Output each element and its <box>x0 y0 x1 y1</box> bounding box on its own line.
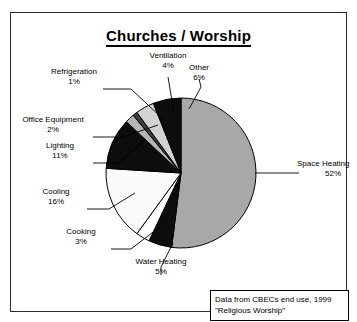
source-note-line-1: Data from CBECs end use, 1999 <box>215 294 344 305</box>
pie-label-ventilation-name: Ventilation <box>150 51 187 60</box>
pie-label-water-heating: Water Heating 5% <box>119 257 203 277</box>
source-note-box: Data from CBECs end use, 1999 "Religious… <box>210 290 349 321</box>
pie-label-refrigeration-value: 1% <box>37 77 111 87</box>
pie-label-space-heating-name: Space Heating <box>297 159 349 168</box>
pie-label-cooling: Cooling 16% <box>27 187 85 207</box>
pie-slices <box>106 98 256 248</box>
pie-label-water-heating-name: Water Heating <box>136 257 187 266</box>
pie-label-refrigeration-name: Refrigeration <box>51 67 97 76</box>
pie-label-lighting-value: 11% <box>29 151 91 161</box>
chart-frame: Churches / Worship Refrigeration 1% Vent… <box>10 12 347 312</box>
pie-label-space-heating: Space Heating 52% <box>297 159 357 179</box>
pie-label-office-equipment-name: Office Equipment <box>22 115 83 124</box>
pie-label-lighting-name: Lighting <box>46 141 74 150</box>
pie-slice-space-heating <box>172 98 256 248</box>
pie-label-other-name: Other <box>189 63 209 72</box>
pie-label-cooking: Cooking 3% <box>53 227 109 247</box>
pie-label-cooking-name: Cooking <box>66 227 95 236</box>
pie-label-space-heating-value: 52% <box>297 169 357 179</box>
pie-label-office-equipment: Office Equipment 2% <box>11 115 95 135</box>
pie-label-other: Other 6% <box>177 63 221 83</box>
pie-label-office-equipment-value: 2% <box>11 125 95 135</box>
pie-label-cooling-value: 16% <box>27 197 85 207</box>
pie-label-cooling-name: Cooling <box>42 187 69 196</box>
pie-label-lighting: Lighting 11% <box>29 141 91 161</box>
pie-label-refrigeration: Refrigeration 1% <box>37 67 111 87</box>
pie-label-cooking-value: 3% <box>53 237 109 247</box>
pie-label-other-value: 6% <box>177 73 221 83</box>
source-note-line-2: "Religious Worship" <box>215 305 344 316</box>
pie-label-water-heating-value: 5% <box>119 267 203 277</box>
